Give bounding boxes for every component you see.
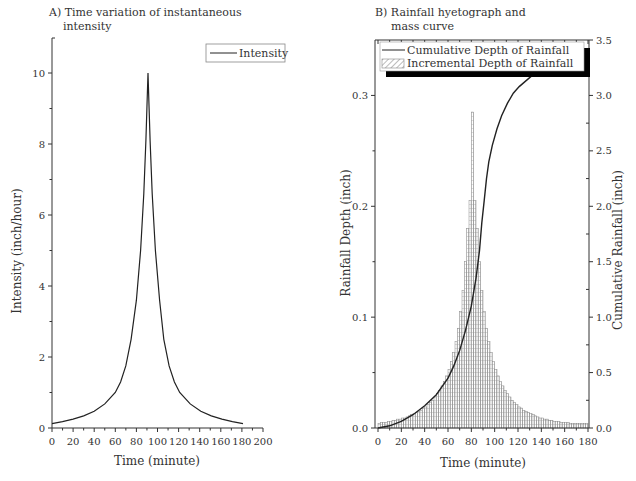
rainfall-bar xyxy=(539,418,541,428)
rainfall-bar xyxy=(413,414,415,428)
rainfall-bar xyxy=(483,312,485,428)
rainfall-bar xyxy=(576,424,578,428)
rainfall-bar xyxy=(497,376,499,428)
rainfall-bar xyxy=(420,410,422,428)
rainfall-bar xyxy=(399,419,401,428)
rainfall-bar xyxy=(516,405,518,428)
x-tick-label: 100 xyxy=(148,436,167,447)
rainfall-bar xyxy=(567,422,569,428)
x-tick-label: 200 xyxy=(253,436,272,447)
rainfall-bar xyxy=(581,424,583,428)
rainfall-bar xyxy=(425,407,427,428)
x-tick-label: 20 xyxy=(67,436,80,447)
chart-a-plot xyxy=(52,73,243,424)
rainfall-bar xyxy=(481,291,483,428)
y-tick-label: 2 xyxy=(39,352,45,363)
rainfall-bar xyxy=(495,369,497,428)
rainfall-bar xyxy=(553,421,555,428)
rainfall-bar xyxy=(422,408,424,428)
left-y-tick-label: 0.3 xyxy=(352,90,368,101)
rainfall-bar xyxy=(457,328,459,428)
rainfall-bar xyxy=(464,262,466,428)
rainfall-bar xyxy=(537,417,539,428)
x-tick-label: 60 xyxy=(109,436,122,447)
right-y-tick-label: 2.5 xyxy=(596,145,612,156)
x-tick-label: 0 xyxy=(49,436,55,447)
y-tick-label: 8 xyxy=(39,139,45,150)
y-tick-label: 0 xyxy=(39,423,45,434)
x-tick-label: 0 xyxy=(375,436,381,447)
rainfall-bar xyxy=(544,419,546,428)
right-y-tick-label: 3.0 xyxy=(596,90,612,101)
rainfall-bar xyxy=(387,421,389,428)
rainfall-bar xyxy=(415,412,417,428)
rainfall-bar xyxy=(502,386,504,428)
right-y-tick-label: 1.5 xyxy=(596,256,612,267)
legend-intensity: Intensity xyxy=(239,47,289,60)
y-tick-label: 10 xyxy=(32,68,45,79)
rainfall-bar xyxy=(478,262,480,428)
right-y-tick-label: 3.5 xyxy=(596,35,612,46)
x-tick-label: 160 xyxy=(555,436,574,447)
chart-b-ylabel-left: Rainfall Depth (inch) xyxy=(339,169,353,296)
rainfall-bar xyxy=(520,408,522,428)
rainfall-bar xyxy=(523,410,525,428)
x-tick-label: 100 xyxy=(485,436,504,447)
rainfall-bar xyxy=(551,420,553,428)
rainfall-bar xyxy=(555,421,557,428)
rainfall-bar xyxy=(518,407,520,428)
chart-a: A) Time variation of instantaneous inten… xyxy=(10,6,289,468)
rainfall-bar xyxy=(541,418,543,428)
rainfall-bar xyxy=(471,112,473,428)
rainfall-bar xyxy=(485,328,487,428)
x-tick-label: 180 xyxy=(578,436,597,447)
rainfall-bar xyxy=(525,411,527,428)
rainfall-bar xyxy=(548,420,550,428)
x-tick-label: 20 xyxy=(395,436,408,447)
rainfall-bar xyxy=(427,405,429,428)
chart-a-title-line2: intensity xyxy=(63,20,112,33)
chart-a-xlabel: Time (minute) xyxy=(114,454,200,468)
x-tick-label: 80 xyxy=(130,436,143,447)
right-y-tick-label: 0.0 xyxy=(596,423,612,434)
rainfall-bar xyxy=(432,400,434,428)
chart-b-legend: Cumulative Depth of Rainfall Incremental… xyxy=(380,42,590,77)
rainfall-bar xyxy=(467,228,469,428)
rainfall-bar xyxy=(443,381,445,428)
chart-a-axes: 0204060801001201401601802000246810 xyxy=(32,38,272,447)
chart-b-title-line2: mass curve xyxy=(391,20,454,33)
x-tick-label: 40 xyxy=(418,436,431,447)
rainfall-bar xyxy=(530,414,532,428)
chart-a-ylabel: Intensity (inch/hour) xyxy=(10,188,24,313)
intensity-chart: A) Time variation of instantaneous inten… xyxy=(0,0,636,481)
rainfall-bar xyxy=(460,312,462,428)
rainfall-bar xyxy=(504,390,506,428)
chart-b: B) Rainfall hyetograph and mass curve 02… xyxy=(339,6,625,470)
legend-hatch-icon xyxy=(382,59,404,68)
x-tick-label: 60 xyxy=(442,436,455,447)
right-y-tick-label: 1.0 xyxy=(596,312,612,323)
rainfall-bar xyxy=(462,291,464,428)
legend-incremental: Incremental Depth of Rainfall xyxy=(407,57,574,70)
rainfall-bar xyxy=(455,342,457,428)
x-tick-label: 120 xyxy=(508,436,527,447)
rainfall-bar xyxy=(441,386,443,428)
rainfall-bar xyxy=(579,424,581,428)
rainfall-bar xyxy=(574,424,576,428)
rainfall-bar xyxy=(499,381,501,428)
rainfall-bar xyxy=(562,422,564,428)
rainfall-bar xyxy=(446,376,448,428)
rainfall-bar xyxy=(429,403,431,429)
x-tick-label: 40 xyxy=(88,436,101,447)
rainfall-bar xyxy=(506,394,508,428)
rainfall-bar xyxy=(418,411,420,428)
rainfall-bar xyxy=(527,412,529,428)
left-y-tick-label: 0.0 xyxy=(352,423,368,434)
x-tick-label: 80 xyxy=(465,436,478,447)
rainfall-bar xyxy=(558,421,560,428)
chart-a-legend: Intensity xyxy=(206,44,289,62)
x-tick-label: 140 xyxy=(190,436,209,447)
rainfall-bar xyxy=(572,424,574,428)
rainfall-bar xyxy=(532,415,534,428)
rainfall-bar xyxy=(439,390,441,428)
